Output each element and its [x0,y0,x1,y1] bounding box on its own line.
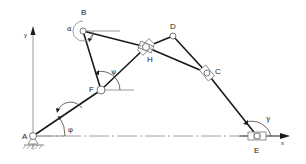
label-c: C [215,67,221,76]
label-a: A [22,132,28,141]
x-axis-label: x [281,140,284,146]
link-f-h [101,47,146,90]
angle-psi-label: ψ [111,68,117,76]
angle-alpha-label: α [67,25,72,33]
angle-phi-label: φ [68,126,73,134]
label-b: B [81,8,86,17]
label-d: D [170,22,176,31]
joint-f [97,86,105,94]
label-f: F [89,85,94,94]
y-axis-label: y [24,32,27,38]
joint-e [254,133,260,139]
angle-phi-arc [60,118,65,136]
label-h: H [147,55,153,64]
joint-b [80,28,86,34]
linkage-diagram: y x φ ψ α γ [0,0,306,164]
x-axis-arrow-icon [280,133,290,139]
link-f-b [83,31,101,90]
joint-d [170,33,176,39]
link-h-c [146,47,207,73]
y-axis-arrow-icon [31,26,36,35]
angle-gamma-label: γ [266,115,270,123]
joint-c [204,70,210,76]
link-a-f [33,90,101,136]
joint-a [30,133,37,140]
joint-h [143,44,150,51]
label-e: E [254,146,259,155]
link-d-c [173,36,207,73]
link-c-e [207,73,257,136]
rotation-af-arrow-icon [56,108,60,113]
